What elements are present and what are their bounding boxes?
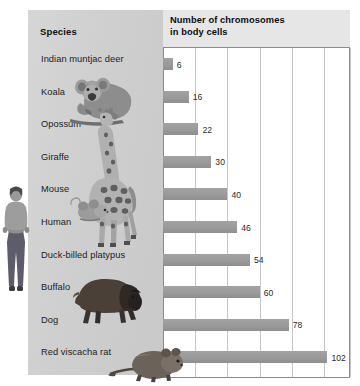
species-label: Duck-billed platypus <box>41 250 125 260</box>
bar-value-label: 22 <box>202 125 212 135</box>
bar-value-label: 40 <box>231 190 241 200</box>
species-label: Mouse <box>41 184 69 194</box>
species-label: Giraffe <box>41 152 69 162</box>
bar-value-label: 46 <box>241 223 251 233</box>
bar-value-label: 16 <box>193 92 203 102</box>
bar <box>163 221 237 233</box>
bar <box>163 91 189 103</box>
bar <box>163 254 250 266</box>
species-label-list: Indian muntjac deer6Koala16Opossum22Gira… <box>0 0 360 386</box>
bar <box>163 156 211 168</box>
bar-value-label: 78 <box>293 320 303 330</box>
species-label: Human <box>41 217 71 227</box>
bar <box>163 58 173 70</box>
mouse-photo <box>70 195 110 223</box>
bar-value-label: 102 <box>331 353 345 363</box>
bar-value-label: 60 <box>264 288 274 298</box>
species-label: Buffalo <box>41 282 70 292</box>
buffalo-photo <box>72 272 144 324</box>
species-label: Dog <box>41 315 58 325</box>
bar <box>163 319 289 331</box>
human-photo <box>0 185 32 295</box>
bar <box>163 123 198 135</box>
bar-value-label: 30 <box>215 157 225 167</box>
species-label: Red viscacha rat <box>41 347 111 357</box>
bar-value-label: 6 <box>177 60 182 70</box>
bar <box>163 188 227 200</box>
bar-value-label: 54 <box>254 255 264 265</box>
species-label: Indian muntjac deer <box>41 54 124 64</box>
bar <box>163 286 260 298</box>
chart-figure: Species Number of chromosomes in body ce… <box>0 0 360 386</box>
giraffe-photo <box>78 108 144 248</box>
red-viscacha-rat-photo <box>108 348 188 382</box>
